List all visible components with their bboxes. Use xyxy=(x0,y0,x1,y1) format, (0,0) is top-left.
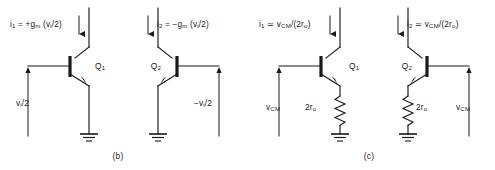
collector-lead-c-right xyxy=(408,47,422,58)
current-label-c-left: i1 ≃ vCM/(2ro) xyxy=(259,20,311,29)
subcircuit-b-right: i2 = −gm (vi/2) −vi/2 Q2 xyxy=(148,8,222,141)
resistor-label-c-left: 2ro xyxy=(305,103,317,112)
source-label-b-left: vi/2 xyxy=(16,99,29,108)
device-label-c-left: Q1 xyxy=(349,61,360,71)
source-arrow-c-right xyxy=(466,67,471,73)
current-label-b-left: i1 = +gm (vi/2) xyxy=(10,20,62,29)
resistor-c-left xyxy=(335,96,345,126)
source-label-c-right: vCM xyxy=(456,103,470,112)
emitter-lead-c-right xyxy=(408,74,427,86)
resistor-label-c-right: 2ro xyxy=(416,103,428,112)
source-arrow-b-left xyxy=(25,67,30,73)
collector-lead-c-left xyxy=(326,47,340,58)
device-label-b-right: Q2 xyxy=(151,61,162,71)
panel-caption-b: (b) xyxy=(113,151,124,161)
subcircuit-c-right: i2 ≃ vCM/(2ro) vCM 2ro Q2 xyxy=(398,8,472,141)
source-label-c-left: vCM xyxy=(266,103,280,112)
subcircuit-c-left: i1 ≃ vCM/(2ro) vCM 2ro Q1 xyxy=(259,8,360,141)
source-label-b-right: −vi/2 xyxy=(194,99,212,108)
collector-lead-b-left xyxy=(75,47,89,58)
device-label-b-left: Q1 xyxy=(95,61,106,71)
current-label-c-right: i2 ≃ vCM/(2ro) xyxy=(407,20,459,29)
ground-symbol-c-right xyxy=(399,134,417,141)
circuit-diagram: i1 = +gm (vi/2) vi/2 Q1 i2 = −gm xyxy=(0,0,495,170)
current-label-b-right: i2 = −gm (vi/2) xyxy=(157,20,209,29)
resistor-c-right xyxy=(403,96,413,126)
emitter-lead-b-left xyxy=(70,74,89,86)
ground-symbol-b-left xyxy=(80,134,98,141)
collector-lead-b-right xyxy=(158,47,172,58)
emitter-lead-c-left xyxy=(321,74,340,86)
source-arrow-b-right xyxy=(216,67,221,73)
device-label-c-right: Q2 xyxy=(402,61,413,71)
panel-caption-c: (c) xyxy=(364,151,374,161)
ground-symbol-c-left xyxy=(331,134,349,141)
source-arrow-c-left xyxy=(276,67,281,73)
ground-symbol-b-right xyxy=(149,134,167,141)
emitter-lead-b-right xyxy=(158,74,177,86)
subcircuit-b-left: i1 = +gm (vi/2) vi/2 Q1 xyxy=(10,8,106,141)
figure-root: i1 = +gm (vi/2) vi/2 Q1 i2 = −gm xyxy=(0,0,495,170)
